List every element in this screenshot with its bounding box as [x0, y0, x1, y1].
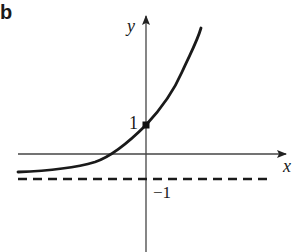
- exponential-graph: y x 1 −1: [0, 0, 294, 252]
- y-intercept-point: [143, 122, 150, 129]
- y-intercept-label: 1: [129, 113, 138, 133]
- exponential-curve: [18, 28, 201, 172]
- x-axis-label: x: [282, 156, 291, 176]
- y-axis-label: y: [125, 16, 135, 36]
- asymptote-label: −1: [153, 183, 171, 202]
